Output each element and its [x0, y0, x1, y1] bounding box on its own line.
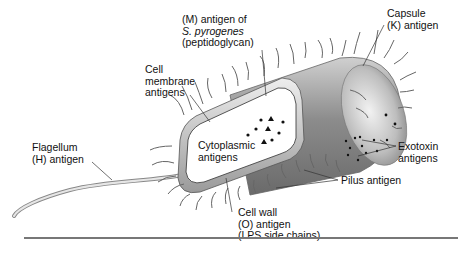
label-m-antigen: (M) antigen of S. pyrogenes (peptidoglyc… — [182, 14, 254, 49]
label-capsule-antigen: Capsule (K) antigen — [387, 8, 438, 31]
bottom-divider — [24, 237, 458, 239]
bacterial-antigen-diagram: (M) antigen of S. pyrogenes (peptidoglyc… — [0, 0, 458, 254]
label-pilus-antigen: Pilus antigen — [341, 175, 401, 187]
label-cytoplasmic-antigens: Cytoplasmic antigens — [198, 140, 255, 163]
label-exotoxin-antigens: Exotoxin antigens — [398, 141, 438, 164]
label-flagellum-antigen: Flagellum (H) antigen — [32, 142, 84, 165]
flagellum — [14, 174, 188, 216]
label-cell-membrane-antigens: Cell membrane antigens — [145, 64, 195, 99]
